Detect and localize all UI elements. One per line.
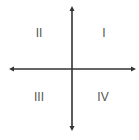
y-axis-bottom-arrow-icon: [70, 126, 75, 131]
x-axis-left-arrow-icon: [9, 67, 14, 72]
quadrant-label-iv: IV: [97, 91, 108, 103]
coordinate-plane-diagram: I II III IV: [0, 0, 139, 140]
axes-graphic: [0, 0, 139, 140]
quadrant-label-i: I: [102, 27, 105, 39]
quadrant-label-iii: III: [34, 91, 44, 103]
x-axis-right-arrow-icon: [131, 67, 136, 72]
quadrant-label-ii: II: [36, 27, 43, 39]
y-axis-top-arrow-icon: [70, 6, 75, 11]
